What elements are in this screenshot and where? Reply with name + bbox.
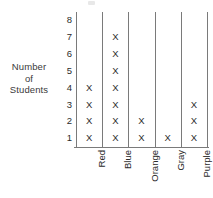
x-mark-icon: X [81, 99, 97, 110]
x-axis-category-label: Gray [174, 150, 187, 196]
y-axis-label-line-1: Number [0, 61, 58, 73]
y-axis-tick: 1 [58, 132, 72, 143]
column-divider-line [76, 12, 77, 147]
x-axis-line [74, 147, 209, 148]
y-axis-tick: 4 [58, 82, 72, 93]
x-axis-category-label: Blue [121, 150, 134, 196]
x-mark-icon: X [134, 132, 150, 143]
x-mark-icon: X [107, 48, 123, 59]
y-axis-tick: 6 [58, 48, 72, 59]
x-mark-icon: X [186, 132, 202, 143]
x-mark-icon: X [107, 132, 123, 143]
x-mark-icon: X [107, 31, 123, 42]
x-mark-icon: X [107, 99, 123, 110]
plot-area: XXXXXXXXXXXXXXXXX [76, 12, 207, 147]
x-mark-icon: X [107, 115, 123, 126]
y-axis-tick: 7 [58, 31, 72, 42]
column-divider-line [155, 12, 156, 147]
x-mark-icon: X [81, 132, 97, 143]
column-divider-line [181, 12, 182, 147]
x-mark-icon: X [81, 115, 97, 126]
x-axis-category-label: Purple [200, 150, 213, 196]
y-axis-label-line-2: of [0, 73, 58, 85]
x-mark-icon: X [107, 65, 123, 76]
x-mark-icon: X [186, 115, 202, 126]
column-divider-line [128, 12, 129, 147]
x-mark-icon: X [134, 115, 150, 126]
column-divider-line [102, 12, 103, 147]
x-mark-icon: X [107, 82, 123, 93]
y-axis-tick: 3 [58, 99, 72, 110]
scan-artifact [88, 1, 95, 5]
x-mark-icon: X [81, 82, 97, 93]
y-axis-tick: 5 [58, 65, 72, 76]
y-axis-scale: 87654321 [58, 12, 72, 148]
x-mark-icon: X [160, 132, 176, 143]
y-axis-label-line-3: Students [0, 84, 58, 96]
x-axis-category-label: Orange [148, 150, 161, 196]
column-divider-line [207, 12, 208, 147]
x-axis-category-labels: RedBlueOrangeGrayPurple [76, 150, 207, 198]
pictograph-chart: Number of Students 87654321 XXXXXXXXXXXX… [0, 0, 213, 198]
x-mark-icon: X [186, 99, 202, 110]
x-axis-category-label: Red [95, 150, 108, 196]
y-axis-label: Number of Students [0, 61, 58, 96]
y-axis-tick: 8 [58, 14, 72, 25]
y-axis-tick: 2 [58, 115, 72, 126]
